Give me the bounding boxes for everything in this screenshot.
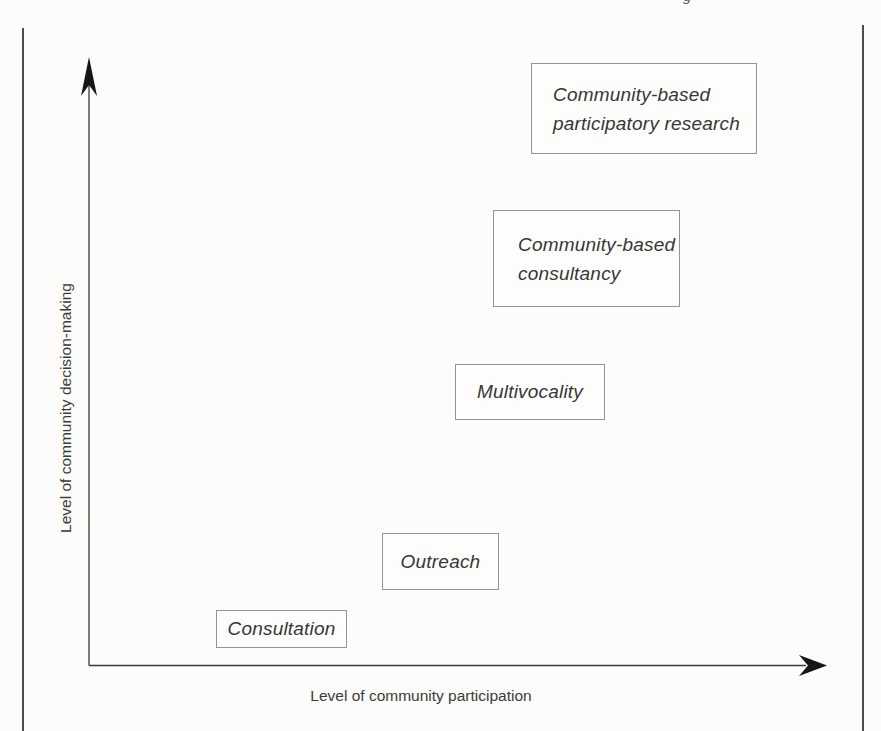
page-frame-right-line: [862, 25, 864, 731]
diagram-box-label: Community-based consultancy: [518, 230, 675, 288]
page-frame-left-line: [22, 28, 24, 731]
diagram-box-multivocality: Multivocality: [455, 364, 605, 420]
cropped-text-artifact: g: [683, 0, 707, 5]
diagram-box-outreach: Outreach: [382, 533, 499, 590]
diagram-box-community-based-participatory-research: Community-based participatory research: [531, 63, 757, 154]
diagram-box-label: Community-based participatory research: [553, 80, 740, 138]
y-axis-arrowhead-icon: [81, 57, 97, 96]
x-axis-label: Level of community participation: [310, 687, 531, 705]
diagram-box-label: Consultation: [227, 618, 335, 640]
figure-canvas: g Level of community decision-making Lev…: [0, 0, 881, 731]
diagram-box-label: Multivocality: [477, 381, 583, 403]
cropped-letter: g: [683, 0, 707, 4]
diagram-box-consultation: Consultation: [216, 610, 347, 648]
x-axis-arrowhead-icon: [799, 655, 827, 676]
diagram-box-community-based-consultancy: Community-based consultancy: [493, 210, 680, 307]
y-axis-label: Level of community decision-making: [57, 283, 75, 533]
diagram-box-label: Outreach: [401, 551, 481, 573]
